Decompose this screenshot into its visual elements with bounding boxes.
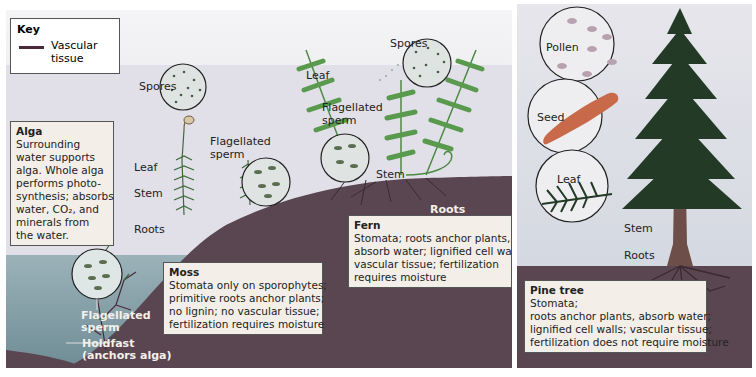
key-title: Key [17, 23, 113, 36]
fern-line: requires moisture [354, 271, 506, 284]
fern-flagellated-label-1: Flagellated [322, 102, 383, 114]
fern-title: Fern [354, 219, 506, 232]
pine-title: Pine tree [530, 284, 701, 297]
alga-line: alga. Whole alga [16, 164, 108, 177]
alga-sperm-circle [72, 249, 122, 299]
panel-alga-moss-fern: Key Vascular tissue Alga Surrounding wat… [6, 10, 512, 368]
alga-line: water supports [16, 151, 108, 164]
fern-description-box: Fern Stomata; roots anchor plants, absor… [348, 215, 512, 288]
alga-line: performs photo- [16, 177, 108, 190]
pine-line: lignified cell walls; vascular tissue; [530, 323, 701, 336]
moss-line: fertilization requires moisture [169, 318, 317, 331]
moss-description-box: Moss Stomata only on sporophytes; primit… [163, 262, 323, 335]
moss-spores-label: Spores [139, 81, 176, 93]
pine-stem-label: Stem [624, 223, 653, 235]
panel-pine-tree: Pollen Seed Leaf Stem Roots Pine tree St… [517, 4, 752, 368]
moss-flagellated-label-1: Flagellated [210, 136, 271, 148]
alga-line: the water. [16, 229, 108, 242]
fern-spores-label: Spores [390, 38, 427, 50]
moss-title: Moss [169, 266, 317, 279]
fern-line: absorb water; lignified cell walls; [354, 245, 506, 258]
moss-flagellated-label-2: sperm [210, 149, 245, 161]
pine-line: fertilization does not require moisture [530, 336, 701, 349]
pollen-label: Pollen [546, 42, 579, 54]
moss-line: no lignin; no vascular tissue; [169, 305, 317, 318]
fern-leaf-label: Leaf [306, 70, 329, 82]
fern-stem-label: Stem [376, 169, 405, 181]
alga-flagellated-label-2: sperm [81, 322, 120, 334]
seed-label: Seed [537, 112, 565, 124]
moss-sperm-circle [242, 158, 290, 206]
moss-roots-label: Roots [134, 224, 165, 236]
alga-line: synthesis; absorbs [16, 190, 108, 203]
fern-line: Stomata; roots anchor plants, [354, 232, 506, 245]
alga-title: Alga [16, 125, 108, 138]
fern-line: vascular tissue; fertilization [354, 258, 506, 271]
pine-roots-label: Roots [624, 250, 655, 262]
alga-line: minerals from [16, 216, 108, 229]
pine-line: roots anchor plants, absorb water; [530, 310, 701, 323]
pine-line: Stomata; [530, 297, 701, 310]
vascular-tissue-line-icon [19, 46, 44, 49]
moss-line: primitive roots anchor plants; [169, 292, 317, 305]
pine-leaf-label: Leaf [557, 174, 580, 186]
alga-line: Surrounding [16, 138, 108, 151]
moss-stem-label: Stem [134, 188, 163, 200]
holdfast-label-2: (anchors alga) [82, 350, 172, 362]
alga-description-box: Alga Surrounding water supports alga. Wh… [10, 121, 114, 246]
moss-leaf-label: Leaf [134, 162, 157, 174]
moss-line: Stomata only on sporophytes; [169, 279, 317, 292]
fern-flagellated-label-2: sperm [322, 115, 357, 127]
key-legend: Key Vascular tissue [10, 18, 120, 74]
key-label-line1: Vascular [51, 39, 97, 52]
fern-sperm-circle [321, 134, 369, 182]
pine-description-box: Pine tree Stomata; roots anchor plants, … [524, 280, 707, 353]
alga-line: water, CO₂, and [16, 203, 108, 216]
key-label-line2: tissue [51, 52, 97, 65]
